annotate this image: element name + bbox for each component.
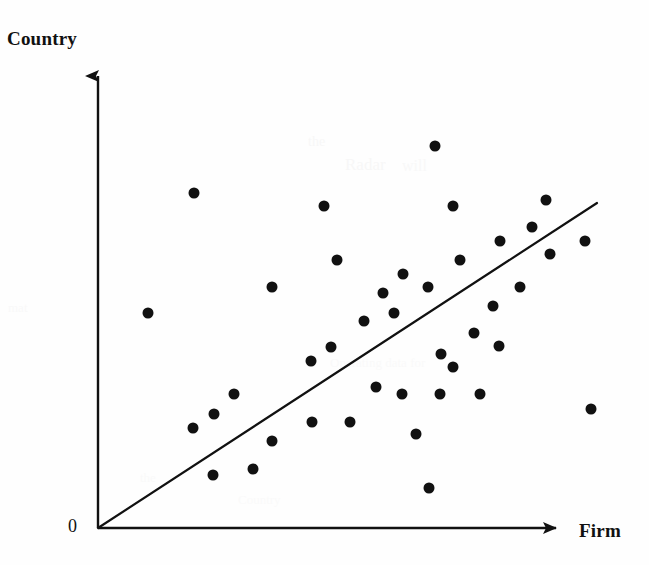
data-point [359, 316, 370, 327]
data-point [455, 255, 466, 266]
trend-line-segment [98, 203, 597, 528]
data-point [515, 282, 526, 293]
data-point [545, 249, 556, 260]
data-point [424, 483, 435, 494]
plot-canvas [0, 0, 649, 565]
data-point [371, 382, 382, 393]
data-point [423, 282, 434, 293]
data-point [411, 429, 422, 440]
data-point [188, 423, 199, 434]
data-point [306, 356, 317, 367]
scatter-plot-figure: theRadarwillmatOperating data fortheCoun… [0, 0, 649, 565]
data-point [398, 269, 409, 280]
data-point [586, 404, 597, 415]
data-point [319, 201, 330, 212]
data-point [209, 409, 220, 420]
data-point [488, 301, 499, 312]
axes-group [98, 76, 556, 528]
data-point [436, 349, 447, 360]
data-point [307, 417, 318, 428]
data-point [541, 195, 552, 206]
data-point [494, 341, 505, 352]
trend-line [98, 203, 597, 528]
data-point [267, 436, 278, 447]
data-point [495, 236, 506, 247]
data-point [229, 389, 240, 400]
data-point [332, 255, 343, 266]
data-point [326, 342, 337, 353]
data-point [248, 464, 259, 475]
data-point [475, 389, 486, 400]
data-point [208, 470, 219, 481]
data-point [448, 201, 459, 212]
data-point [267, 282, 278, 293]
y-axis-label: Country [7, 28, 77, 50]
data-point [143, 308, 154, 319]
data-point [189, 188, 200, 199]
origin-label: 0 [68, 516, 77, 537]
data-point [448, 362, 459, 373]
data-point [580, 236, 591, 247]
data-point [378, 288, 389, 299]
data-point [397, 389, 408, 400]
data-point [430, 141, 441, 152]
data-point [345, 417, 356, 428]
data-point [469, 328, 480, 339]
x-axis-label: Firm [579, 520, 621, 542]
data-points-group [143, 141, 597, 494]
data-point [389, 308, 400, 319]
data-point [435, 389, 446, 400]
data-point [527, 222, 538, 233]
